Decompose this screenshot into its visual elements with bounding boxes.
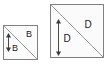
small-square-label-upper: B bbox=[26, 29, 32, 39]
small-square-label-lower: B bbox=[12, 43, 18, 53]
geometry-diagram: B B D D bbox=[0, 0, 107, 67]
small-square-group: B B bbox=[4, 26, 38, 60]
large-square-label-lower: D bbox=[63, 33, 70, 44]
large-square-group: D D bbox=[51, 5, 104, 58]
figure-container: B B D D bbox=[0, 0, 107, 67]
large-square-label-upper: D bbox=[84, 19, 91, 30]
